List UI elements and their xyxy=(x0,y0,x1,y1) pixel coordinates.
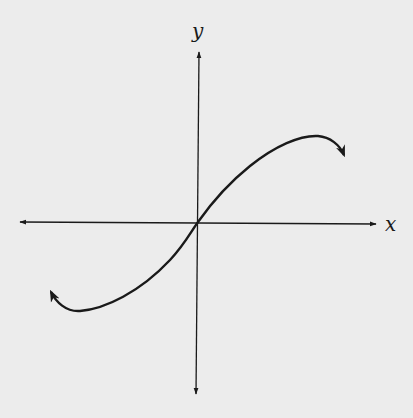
y-axis-label: y xyxy=(191,19,204,43)
graph-canvas: y x xyxy=(0,0,413,418)
x-axis-label: x xyxy=(385,212,396,236)
